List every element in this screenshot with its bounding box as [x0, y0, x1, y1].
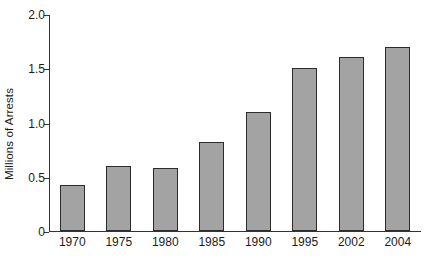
bar-chart: Millions of Arrests 2.01.51.00.50 197019…: [0, 0, 435, 268]
x-axis-tick-label: 2002: [338, 236, 365, 248]
y-axis-tick-label: 1.0: [28, 118, 45, 130]
bar: [246, 112, 271, 231]
bars-group: [49, 15, 421, 232]
x-axis-tick-label: 1970: [59, 236, 86, 248]
bar: [106, 166, 131, 231]
x-axis-tick-label: 1985: [198, 236, 225, 248]
y-axis-title: Millions of Arrests: [0, 0, 18, 268]
bar: [153, 168, 178, 231]
y-axis-tick-label: 1.5: [28, 63, 45, 75]
x-axis-tick-labels: 19701975198019851990199520022004: [49, 236, 421, 256]
x-axis-tick-label: 1995: [291, 236, 318, 248]
bar: [385, 47, 410, 231]
y-axis-tick-label: 2.0: [28, 9, 45, 21]
y-axis-tick-label: 0: [38, 226, 45, 238]
y-axis-tick-label: 0.5: [28, 172, 45, 184]
x-axis-tick-label: 1975: [105, 236, 132, 248]
bar: [339, 57, 364, 231]
x-axis-tick-label: 2004: [384, 236, 411, 248]
bar: [292, 68, 317, 231]
plot-area: 2.01.51.00.50: [49, 15, 421, 232]
x-axis-tick-label: 1980: [152, 236, 179, 248]
x-axis-tick-label: 1990: [245, 236, 272, 248]
bar: [199, 142, 224, 231]
bar: [60, 185, 85, 231]
